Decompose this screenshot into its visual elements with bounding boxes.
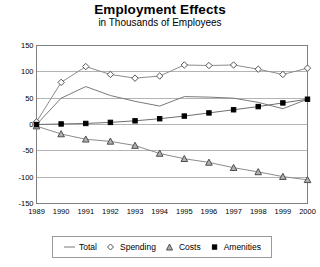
data-point-spending	[156, 73, 162, 79]
data-point-amenities	[133, 119, 137, 123]
data-point-spending	[304, 65, 310, 71]
data-point-amenities	[256, 104, 260, 108]
line-icon	[63, 242, 76, 252]
data-point-amenities	[84, 121, 88, 125]
employment-effects-chart: Employment Effects in Thousands of Emplo…	[0, 0, 320, 267]
data-point-amenities	[281, 101, 285, 105]
data-point-spending	[206, 62, 212, 68]
y-tick-label: 50	[25, 94, 33, 103]
filled-square-icon	[208, 242, 221, 252]
series-line-costs	[37, 126, 308, 180]
legend-item-total[interactable]: Total	[63, 242, 97, 252]
x-axis-tick-labels: 1989199019911992199319941995199619971998…	[28, 207, 316, 216]
data-point-spending	[58, 79, 64, 85]
legend-item-costs[interactable]: Costs	[163, 242, 201, 252]
x-tick-label: 1996	[201, 207, 218, 216]
data-point-spending	[181, 62, 187, 68]
y-tick-label: 100	[21, 67, 34, 76]
x-tick-label: 1999	[275, 207, 292, 216]
data-point-amenities	[34, 122, 38, 126]
legend-item-label: Total	[79, 243, 97, 252]
x-tick-label: 1991	[77, 207, 94, 216]
legend-item-spending[interactable]: Spending	[104, 242, 156, 252]
chart-legend: TotalSpendingCostsAmenities	[52, 236, 272, 258]
data-point-amenities	[59, 122, 63, 126]
y-axis-tick-labels: 150100500-50-100-150	[18, 41, 33, 208]
y-tick-label: 150	[21, 41, 34, 50]
data-point-amenities	[207, 111, 211, 115]
plot-area: 150100500-50-100-150 1989199019911992199…	[0, 40, 320, 220]
x-tick-label: 1997	[225, 207, 242, 216]
x-tick-label: 1993	[127, 207, 144, 216]
x-tick-label: 1998	[250, 207, 267, 216]
x-tick-label: 1990	[53, 207, 70, 216]
x-tick-label: 1989	[28, 207, 45, 216]
plot-svg: 150100500-50-100-150 1989199019911992199…	[0, 40, 320, 220]
data-series-layer	[33, 62, 311, 183]
data-point-amenities	[231, 108, 235, 112]
data-point-amenities	[182, 114, 186, 118]
legend-item-label: Costs	[179, 243, 201, 252]
x-tick-label: 1992	[102, 207, 119, 216]
series-line-amenities	[37, 99, 308, 124]
x-tick-label: 1995	[176, 207, 193, 216]
y-tick-label: -100	[18, 173, 33, 182]
data-point-spending	[83, 63, 89, 69]
data-point-spending	[132, 75, 138, 81]
x-tick-label: 2000	[299, 207, 316, 216]
legend-item-label: Spending	[120, 243, 156, 252]
title-block: Employment Effects in Thousands of Emplo…	[0, 2, 320, 29]
data-point-amenities	[108, 120, 112, 124]
y-tick-label: -50	[23, 146, 34, 155]
chart-subtitle: in Thousands of Employees	[0, 17, 320, 29]
legend-item-label: Amenities	[224, 243, 261, 252]
page-title: Employment Effects	[0, 2, 320, 17]
y-tick-label: 0	[29, 120, 33, 129]
legend-item-amenities[interactable]: Amenities	[208, 242, 261, 252]
triangle-icon	[163, 242, 176, 252]
open-diamond-icon	[104, 242, 117, 252]
series-costs	[33, 123, 311, 183]
data-point-amenities	[157, 117, 161, 121]
data-point-amenities	[305, 97, 309, 101]
gridlines	[37, 72, 308, 177]
series-line-spending	[37, 65, 308, 122]
series-spending	[33, 62, 310, 125]
x-tick-label: 1994	[151, 207, 168, 216]
data-point-spending	[230, 62, 236, 68]
